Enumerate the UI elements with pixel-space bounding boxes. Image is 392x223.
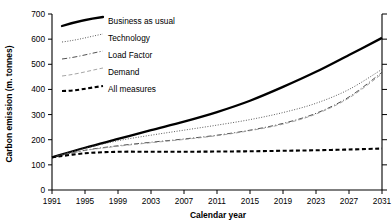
legend-label: Load Factor (108, 50, 153, 60)
line-chart: Carbon emission (m. tonnes) Calendar yea… (0, 0, 392, 223)
x-tick-label: 1995 (76, 196, 95, 206)
x-tick-label: 2007 (175, 196, 194, 206)
y-tick-label: 200 (31, 135, 45, 145)
x-tick-label: 2015 (241, 196, 260, 206)
y-tick-label: 600 (31, 34, 45, 44)
x-tick-label: 1999 (109, 196, 128, 206)
y-tick-label: 400 (31, 84, 45, 94)
y-tick-label: 500 (31, 59, 45, 69)
x-tick-label: 2003 (142, 196, 161, 206)
legend-label: Business as usual (108, 16, 175, 26)
x-tick-label: 2019 (274, 196, 293, 206)
legend-label: Technology (108, 33, 151, 43)
x-tick-label: 2027 (340, 196, 359, 206)
x-tick-label: 2023 (307, 196, 326, 206)
y-tick-label: 700 (31, 9, 45, 19)
chart-figure: Carbon emission (m. tonnes) Calendar yea… (0, 0, 392, 223)
legend-label: Demand (108, 67, 140, 77)
y-tick-label: 300 (31, 110, 45, 120)
y-axis-title: Carbon emission (m. tonnes) (4, 45, 14, 162)
x-tick-label: 2031 (373, 196, 392, 206)
y-tick-label: 0 (40, 185, 45, 195)
y-tick-label: 100 (31, 160, 45, 170)
x-tick-label: 1991 (43, 196, 62, 206)
legend-label: All measures (108, 84, 156, 94)
x-tick-label: 2011 (208, 196, 226, 206)
x-axis-title: Calendar year (190, 210, 247, 220)
